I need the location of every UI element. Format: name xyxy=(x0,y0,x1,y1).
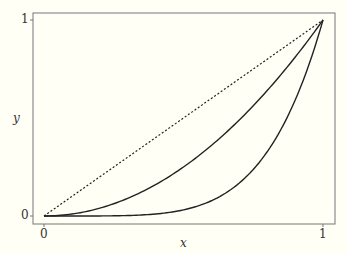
y-axis-label: y xyxy=(13,111,20,125)
y-tick-label-1: 1 xyxy=(21,12,29,26)
x-tick-label-1: 1 xyxy=(319,227,327,241)
y-tick-label-0: 0 xyxy=(21,208,29,222)
chart-plot xyxy=(0,0,347,254)
x-axis-label: x xyxy=(180,236,187,250)
x-tick-label-0: 0 xyxy=(40,227,48,241)
series-line-1 xyxy=(44,20,323,216)
series-group xyxy=(44,20,323,216)
